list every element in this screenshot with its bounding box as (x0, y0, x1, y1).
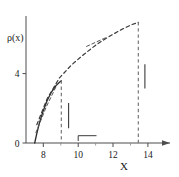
x-tick-label-8: 8 (41, 150, 46, 160)
x-axis-label: X (120, 160, 128, 172)
x-tick-label-12: 12 (108, 150, 118, 160)
x-tick-label-10: 10 (73, 150, 83, 160)
x-tick-label-14: 14 (143, 150, 153, 160)
dashed-tangent-segment (36, 85, 57, 133)
scale-bar-marker (78, 136, 96, 141)
y-tick-label-4: 4 (15, 69, 20, 79)
solid-branch-curve (35, 81, 62, 143)
y-axis-label: ρ(x) (7, 32, 24, 44)
axes-group (26, 16, 170, 146)
density-plot: ρ(x) 4 0 8 10 12 14 X (0, 0, 179, 177)
x-axis-ticks (43, 143, 148, 147)
x-axis-arrowhead (162, 140, 170, 146)
dashed-upper-branch (37, 22, 139, 124)
y-tick-label-0: 0 (15, 139, 20, 149)
y-axis-ticks (23, 74, 27, 143)
figure-container: ρ(x) 4 0 8 10 12 14 X (0, 0, 179, 177)
